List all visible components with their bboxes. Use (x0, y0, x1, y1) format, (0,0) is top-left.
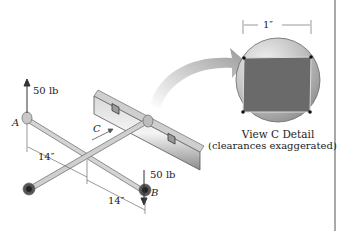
dim-right-label: 14″ (108, 196, 124, 206)
point-a-label: A (12, 118, 19, 128)
force-label-bottom: 50 lb (150, 170, 176, 180)
detail-dim-label: 1″ (263, 20, 273, 30)
dimension-lines (27, 124, 145, 214)
view-arrow-icon (150, 48, 246, 108)
force-arrows (24, 79, 147, 205)
point-b-label: B (151, 188, 158, 198)
view-c-detail (236, 20, 320, 122)
force-label-top: 50 lb (33, 86, 59, 96)
detail-subtitle: (clearances exaggerated) (208, 140, 333, 152)
lug-wrench-diagram: 50 lb A C 14″ 50 lb B 14″ 1″ View C Deta… (0, 0, 340, 231)
diagram-graphics (0, 0, 340, 231)
point-c-label: C (93, 124, 101, 134)
detail-title: View C Detail (228, 128, 328, 140)
dim-left-label: 14″ (38, 152, 54, 162)
